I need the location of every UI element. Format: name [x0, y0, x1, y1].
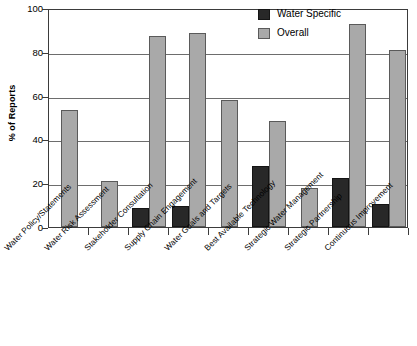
x-axis-tick-mark [248, 228, 249, 235]
x-axis-tick-mark [408, 228, 409, 235]
x-axis-tick-mark [288, 228, 289, 235]
bar-overall [61, 110, 78, 227]
x-axis-tick-mark [368, 228, 369, 235]
bar-water-specific [372, 204, 389, 227]
legend-label-overall: Overall [277, 28, 309, 38]
y-axis-tick-label: 100 [3, 4, 43, 14]
legend-label-water-specific: Water Specific [277, 9, 341, 19]
legend: Water Specific Overall [258, 6, 394, 44]
bar-overall [389, 50, 406, 227]
y-axis-tick-label: 40 [3, 135, 43, 145]
bar-overall [349, 24, 366, 227]
x-axis-tick-mark [208, 228, 209, 235]
y-axis-tick-label: 80 [3, 48, 43, 58]
y-axis-tick-mark [42, 228, 48, 229]
legend-swatch-overall-icon [258, 28, 270, 39]
y-axis-title: % of Reports [7, 58, 17, 168]
bar-overall [189, 33, 206, 227]
legend-item-overall: Overall [258, 25, 394, 41]
legend-item-water-specific: Water Specific [258, 6, 394, 22]
bar-chart: % of Reports 020406080100 Water Policy/S… [0, 0, 417, 346]
bar-overall [221, 100, 238, 227]
y-axis-tick-label: 20 [3, 179, 43, 189]
y-axis-tick-label: 60 [3, 92, 43, 102]
x-axis-tick-mark [328, 228, 329, 235]
x-axis-tick-mark [88, 228, 89, 235]
bar-overall [149, 36, 166, 227]
legend-swatch-water-specific-icon [258, 9, 270, 20]
x-axis-tick-mark [128, 228, 129, 235]
x-axis-tick-mark [168, 228, 169, 235]
